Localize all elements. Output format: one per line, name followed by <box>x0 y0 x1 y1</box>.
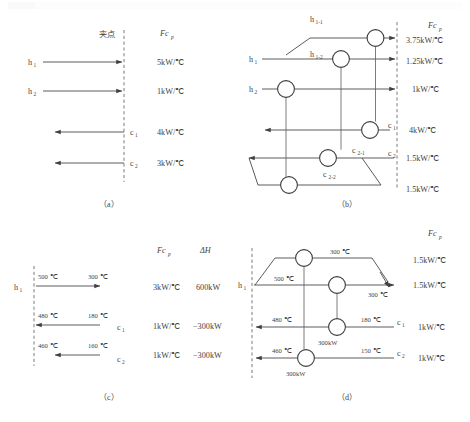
temp-d-h1-in: 500 ℃ <box>274 275 294 282</box>
dh-value-c-c2: −300kW <box>193 351 222 360</box>
dh-value-c-c1: −300kW <box>193 322 222 331</box>
stream-label-a-h1: h <box>28 58 32 67</box>
stream-label-b-c1: c <box>388 121 392 130</box>
fcp-value-b-5: 1.5kW/℃ <box>406 154 439 163</box>
exchanger-b-3[interactable] <box>278 81 295 98</box>
branch-line-b-h1-1 <box>286 38 368 55</box>
exchanger-d-2[interactable] <box>329 277 346 294</box>
branch-sub-b-h1-1: 1-1 <box>316 19 323 25</box>
branch-label-b-h1-1: h <box>310 15 314 24</box>
stream-sub-a-h1: 1 <box>34 62 37 68</box>
stream-sub-d-c1: 1 <box>402 322 405 328</box>
panel-c: Fc p ΔH h 1 500 ℃ 300 ℃ 3kW/℃ 600kW 480 … <box>14 246 222 402</box>
stream-sub-c-h1: 1 <box>20 287 23 293</box>
branch-line-b-c2-2-right <box>297 158 381 185</box>
fcp-value-b-1: 3.75kW/℃ <box>406 36 443 45</box>
stream-sub-b-c2: 2 <box>393 153 396 159</box>
branch-sub-b-h1-2: 1-2 <box>316 54 323 60</box>
fcp-value-c-c2: 1kW/℃ <box>153 351 180 360</box>
exchanger-b-4[interactable] <box>362 122 379 139</box>
panel-b: Fc p h 1-1 h 1 h 1-2 h 2 <box>249 15 443 209</box>
branch-label-b-c2-1: c <box>352 146 356 155</box>
fcp-value-b-3: 1kW/℃ <box>412 85 439 94</box>
branch-sub-b-c2-2: 2-2 <box>329 174 336 180</box>
fcp-header-c-sub: p <box>167 251 171 257</box>
temp-c-h1-in: 500 ℃ <box>38 273 58 280</box>
exchanger-b-1[interactable] <box>367 30 384 47</box>
stream-label-b-h2: h <box>249 85 253 94</box>
stream-label-c-h1: h <box>14 283 18 292</box>
fcp-value-a-c1: 4kW/℃ <box>157 128 184 137</box>
temp-c-c2-in: 160 ℃ <box>88 342 108 349</box>
stream-label-a-c1: c <box>130 128 134 137</box>
fcp-value-b-2: 1.25kW/℃ <box>406 57 443 66</box>
fcp-value-b-6: 1.5kW/℃ <box>406 185 439 194</box>
stream-sub-b-h2: 2 <box>255 89 258 95</box>
temp-c-c1-in: 180 ℃ <box>88 312 108 319</box>
stream-label-d-c2: c <box>397 349 401 358</box>
fcp-header-a: Fc <box>159 29 169 38</box>
exchanger-b-2[interactable] <box>333 51 350 68</box>
branch-label-b-c2-2: c <box>323 170 327 179</box>
stream-sub-a-h2: 2 <box>34 91 37 97</box>
stream-sub-d-h1: 1 <box>244 285 247 291</box>
branch-line-d-right <box>312 258 388 282</box>
fcp-header-d-sub: p <box>438 234 442 240</box>
panel-a: 夹点 Fc p h 1 5kW/℃ h 2 1kW/℃ c 1 4kW/℃ c … <box>28 29 184 209</box>
temp-c-c2-out: 460 ℃ <box>38 342 58 349</box>
temp-d-branch-out: 300 ℃ <box>330 248 350 255</box>
branch-sub-b-c2-1: 2-1 <box>358 150 365 156</box>
fcp-header-d: Fc <box>427 229 437 238</box>
fcp-value-c-h1: 3kW/℃ <box>153 283 180 292</box>
stream-sub-c-c2: 2 <box>122 359 125 365</box>
panel-d: Fc p 300 ℃ h 1 500 ℃ 300 ℃ 480 ℃ 180 ℃ 3… <box>238 229 446 402</box>
dh-value-c-h1: 600kW <box>196 283 220 292</box>
fcp-value-a-h2: 1kW/℃ <box>157 87 184 96</box>
fcp-value-d-3: 1kW/℃ <box>418 323 445 332</box>
temp-d-c1-out: 480 ℃ <box>272 316 292 323</box>
caption-d: （d） <box>337 393 357 402</box>
stream-label-a-c2: c <box>130 159 134 168</box>
stream-label-b-c2: c <box>388 149 392 158</box>
stream-sub-b-h1: 1 <box>255 59 258 65</box>
fcp-value-d-2: 1.5kW/℃ <box>413 281 446 290</box>
temp-c-h1-out: 300 ℃ <box>88 273 108 280</box>
figure-canvas: 夹点 Fc p h 1 5kW/℃ h 2 1kW/℃ c 1 4kW/℃ c … <box>0 0 470 422</box>
branch-label-b-h1-2: h <box>310 50 314 59</box>
stream-label-d-c1: c <box>397 318 401 327</box>
fcp-header-a-sub: p <box>170 34 174 40</box>
caption-a: （a） <box>99 200 119 209</box>
fcp-header-b-sub: p <box>438 26 442 32</box>
temp-d-c2-out: 460 ℃ <box>272 347 292 354</box>
fcp-value-c-c1: 1kW/℃ <box>153 322 180 331</box>
fcp-value-a-h1: 5kW/℃ <box>157 58 184 67</box>
fcp-value-d-1: 1.5kW/℃ <box>413 256 446 265</box>
temp-d-c2-in: 150 ℃ <box>361 347 381 354</box>
stream-label-c-c1: c <box>117 323 121 332</box>
exchanger-d-4[interactable] <box>298 350 315 367</box>
stream-sub-a-c2: 2 <box>135 163 138 169</box>
fcp-header-b: Fc <box>427 21 437 30</box>
stream-label-c-c2: c <box>117 355 121 364</box>
fcp-value-b-4: 4kW/℃ <box>409 126 436 135</box>
stream-sub-c-c1: 1 <box>122 327 125 333</box>
caption-c: （c） <box>99 393 119 402</box>
duty-d-2: 300kW <box>286 370 306 377</box>
exchanger-d-3[interactable] <box>329 319 346 336</box>
dh-header-c: ΔH <box>199 246 212 255</box>
temp-d-h1-out: 300 ℃ <box>368 291 388 298</box>
figure-heat-exchanger-network: 夹点 Fc p h 1 5kW/℃ h 2 1kW/℃ c 1 4kW/℃ c … <box>0 0 470 422</box>
fcp-header-c: Fc <box>156 246 166 255</box>
caption-b: （b） <box>337 200 357 209</box>
fcp-value-a-c2: 3kW/℃ <box>157 159 184 168</box>
temp-d-c1-in: 180 ℃ <box>361 316 381 323</box>
stream-sub-a-c1: 1 <box>135 132 138 138</box>
branch-line-b-c2-2-left <box>249 158 281 185</box>
stream-label-a-h2: h <box>28 87 32 96</box>
stream-label-d-h1: h <box>238 281 242 290</box>
stream-label-b-h1: h <box>249 55 253 64</box>
exchanger-d-1[interactable] <box>296 250 313 267</box>
pinch-label-a: 夹点 <box>99 29 115 39</box>
exchanger-b-6[interactable] <box>281 177 298 194</box>
exchanger-b-5[interactable] <box>320 150 337 167</box>
